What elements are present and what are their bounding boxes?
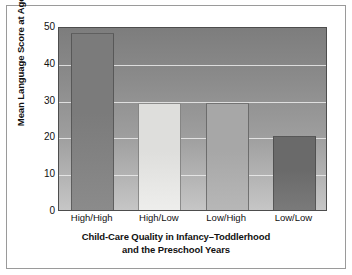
x-tick-label: Low/Low [275, 213, 313, 223]
bar [71, 33, 114, 210]
y-tick-label: 30 [34, 96, 55, 106]
bar [273, 136, 316, 210]
y-axis-title: Mean Language Score at Age 5 [15, 0, 26, 138]
y-tick-label: 20 [34, 132, 55, 142]
x-tick-label: High/High [71, 213, 113, 223]
y-tick-label: 50 [34, 22, 55, 32]
chart-figure: Mean Language Score at Age 5 01020304050… [0, 0, 352, 275]
bar [138, 103, 181, 210]
x-axis-tick-labels: High/HighHigh/LowLow/HighLow/Low [58, 213, 327, 229]
y-tick-label: 10 [34, 169, 55, 179]
x-axis-title-line-2: and the Preschool Years [16, 244, 336, 257]
x-axis-title: Child-Care Quality in Infancy–Toddlerhoo… [16, 231, 336, 257]
x-tick-label: Low/High [206, 213, 246, 223]
y-axis-tick-labels: 01020304050 [34, 27, 55, 211]
plot-area [58, 27, 327, 211]
x-tick-label: High/Low [139, 213, 179, 223]
y-tick-label: 40 [34, 59, 55, 69]
bar [206, 103, 249, 210]
y-tick-label: 0 [34, 206, 55, 216]
x-axis-title-line-1: Child-Care Quality in Infancy–Toddlerhoo… [16, 231, 336, 244]
